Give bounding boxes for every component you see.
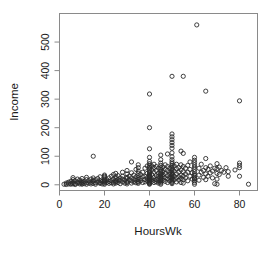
data-point	[197, 173, 201, 177]
data-point	[91, 154, 95, 158]
data-point	[181, 74, 185, 78]
data-point	[170, 146, 174, 150]
scatter-plot-figure: 0100200300400500 020406080 Income HoursW…	[0, 0, 272, 253]
data-point	[226, 174, 230, 178]
data-point	[237, 99, 241, 103]
x-tick-label: 20	[99, 198, 111, 210]
y-axis-ticks	[55, 42, 60, 185]
data-point	[147, 126, 151, 130]
x-tick-label: 60	[189, 198, 201, 210]
data-point	[188, 160, 192, 164]
x-axis-tick-labels: 020406080	[57, 198, 246, 210]
data-point	[147, 147, 151, 151]
y-tick-label: 200	[39, 119, 51, 137]
x-axis-ticks	[60, 191, 240, 196]
x-axis-title: HoursWk	[134, 225, 182, 237]
data-point	[204, 156, 208, 160]
data-point	[129, 160, 133, 164]
data-point	[208, 164, 212, 168]
x-tick-label: 40	[144, 198, 156, 210]
plot-canvas: 0100200300400500 020406080 Income HoursW…	[0, 0, 272, 253]
y-axis-title: Income	[8, 83, 20, 121]
data-point	[136, 163, 140, 167]
data-point	[147, 92, 151, 96]
x-tick-label: 0	[57, 198, 63, 210]
data-point	[197, 166, 201, 170]
data-point	[233, 168, 237, 172]
data-point	[195, 23, 199, 27]
data-point	[215, 177, 219, 181]
data-point	[199, 162, 203, 166]
data-point	[159, 153, 163, 157]
y-tick-label: 400	[39, 62, 51, 80]
data-point	[204, 89, 208, 93]
y-tick-label: 500	[39, 33, 51, 51]
data-point	[165, 152, 169, 156]
data-point	[224, 166, 228, 170]
x-tick-label: 80	[234, 198, 246, 210]
data-point	[197, 178, 201, 182]
y-tick-label: 0	[39, 182, 51, 188]
y-tick-label: 300	[39, 90, 51, 108]
data-point	[170, 74, 174, 78]
data-point	[210, 176, 214, 180]
data-points-layer	[62, 23, 251, 187]
y-tick-label: 100	[39, 147, 51, 165]
data-point	[186, 179, 190, 183]
data-point	[237, 174, 241, 178]
data-point	[246, 182, 250, 186]
y-axis-tick-labels: 0100200300400500	[39, 33, 51, 188]
data-point	[226, 170, 230, 174]
